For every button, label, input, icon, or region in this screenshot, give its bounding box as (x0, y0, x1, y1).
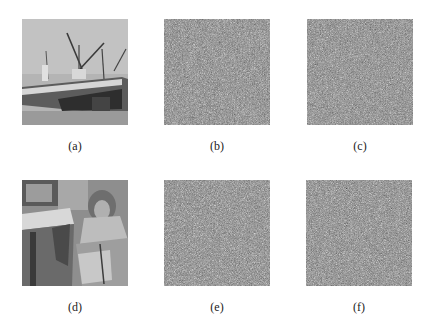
caption-a: (a) (22, 139, 128, 153)
panel-c-encrypted-noise (307, 19, 413, 125)
noise-texture (164, 19, 270, 125)
caption-d: (d) (22, 300, 128, 314)
panel-a-boat-image (22, 19, 128, 125)
panel-f-encrypted-noise (306, 180, 412, 286)
caption-b: (b) (164, 139, 270, 153)
noise-texture (307, 19, 413, 125)
caption-f: (f) (306, 300, 412, 314)
boat-photo (22, 19, 128, 125)
panel-b-encrypted-noise (164, 19, 270, 125)
woman-photo (22, 180, 128, 286)
caption-e: (e) (164, 300, 270, 314)
caption-c: (c) (307, 139, 413, 153)
noise-texture (164, 180, 270, 286)
panel-d-barbara-image (22, 180, 128, 286)
panel-e-encrypted-noise (164, 180, 270, 286)
noise-texture (306, 180, 412, 286)
